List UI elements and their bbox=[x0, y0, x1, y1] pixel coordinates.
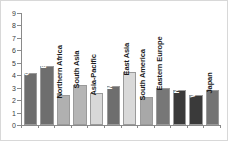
bar bbox=[206, 90, 219, 125]
bar-group: East Asia bbox=[123, 13, 136, 125]
bar-category-label: Central Africa bbox=[23, 28, 31, 76]
y-axis-tick-label: 2 bbox=[12, 97, 16, 104]
bar bbox=[40, 66, 53, 125]
x-axis-tick bbox=[121, 125, 122, 128]
x-axis-tick bbox=[38, 125, 39, 128]
bar bbox=[123, 72, 136, 125]
bar bbox=[156, 88, 169, 125]
bar-category-label: South America bbox=[139, 49, 147, 100]
bar-category-label: Middle East bbox=[106, 49, 114, 90]
bar-group: Middle East bbox=[107, 13, 120, 125]
bar-category-label: South Asia bbox=[73, 50, 81, 88]
y-axis-tick bbox=[17, 50, 21, 51]
x-axis-tick bbox=[203, 125, 204, 128]
y-axis-tick bbox=[17, 88, 21, 89]
y-axis-tick-label: 4 bbox=[12, 72, 16, 79]
y-axis-tick-label: 5 bbox=[12, 59, 16, 66]
x-axis-tick bbox=[220, 125, 221, 128]
bar-category-label: East Asia bbox=[122, 43, 130, 76]
bar-category-label: Japan bbox=[205, 72, 213, 93]
y-axis-tick bbox=[17, 38, 21, 39]
bar-chart: 0123456789 Central AfricaE. and S. Afric… bbox=[0, 0, 228, 141]
bar-category-label: Western Europe bbox=[189, 42, 197, 98]
y-axis-tick bbox=[17, 25, 21, 26]
plot-area: 0123456789 Central AfricaE. and S. Afric… bbox=[21, 13, 221, 125]
bar-category-label: Eastern Europe bbox=[155, 37, 163, 91]
bar-group: Western Europe bbox=[189, 13, 202, 125]
bar-group: Asia-Pacific bbox=[90, 13, 103, 125]
bar bbox=[73, 85, 86, 125]
x-axis-tick bbox=[87, 125, 88, 128]
y-axis-tick-label: 6 bbox=[12, 47, 16, 54]
y-axis-tick-label: 7 bbox=[12, 34, 16, 41]
bar bbox=[107, 86, 120, 125]
x-axis-tick bbox=[170, 125, 171, 128]
y-axis-tick-label: 9 bbox=[12, 10, 16, 17]
bar-group: South America bbox=[140, 13, 153, 125]
bar bbox=[24, 73, 37, 125]
x-axis-tick bbox=[54, 125, 55, 128]
x-axis-tick bbox=[71, 125, 72, 128]
bar bbox=[57, 95, 70, 125]
bar bbox=[173, 90, 186, 125]
y-axis-tick bbox=[17, 75, 21, 76]
bar-group: South Asia bbox=[73, 13, 86, 125]
bar bbox=[90, 93, 103, 125]
x-axis-tick bbox=[104, 125, 105, 128]
bar-group: Eastern Europe bbox=[156, 13, 169, 125]
bar-category-label: North America bbox=[172, 43, 180, 93]
y-axis-tick bbox=[17, 113, 21, 114]
bar-group: Northern Africa bbox=[57, 13, 70, 125]
x-axis-tick bbox=[154, 125, 155, 128]
y-axis-tick-label: 3 bbox=[12, 84, 16, 91]
bar-series: Central AfricaE. and S. AfricaNorthern A… bbox=[22, 13, 221, 125]
x-axis-tick bbox=[137, 125, 138, 128]
bar-group: Central Africa bbox=[24, 13, 37, 125]
y-axis-tick-label: 0 bbox=[12, 122, 16, 129]
bar-category-label: Asia-Pacific bbox=[89, 54, 97, 95]
y-axis-tick-label: 8 bbox=[12, 22, 16, 29]
bar bbox=[189, 95, 202, 125]
bar-category-label: Northern Africa bbox=[56, 45, 64, 98]
bar-group: Japan bbox=[206, 13, 219, 125]
bar bbox=[140, 97, 153, 125]
y-axis-tick bbox=[17, 100, 21, 101]
bar-group: E. and S. Africa bbox=[40, 13, 53, 125]
bar-group: North America bbox=[173, 13, 186, 125]
x-axis-tick bbox=[187, 125, 188, 128]
x-axis-tick bbox=[21, 125, 22, 128]
bar-category-label: E. and S. Africa bbox=[39, 16, 47, 69]
y-axis-tick bbox=[17, 63, 21, 64]
y-axis-tick-label: 1 bbox=[12, 109, 16, 116]
y-axis-tick bbox=[17, 13, 21, 14]
